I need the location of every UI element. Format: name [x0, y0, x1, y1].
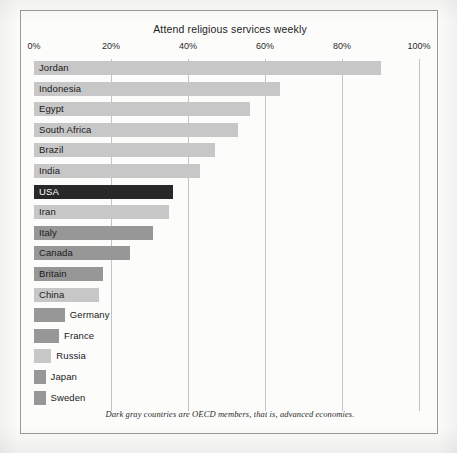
bar-label-egypt: Egypt [39, 102, 64, 116]
x-tick-label-40pct: 40% [179, 41, 197, 51]
bar-row: Sweden [34, 391, 419, 405]
x-tick-label-100pct: 100% [407, 41, 430, 51]
bar-label-usa: USA [39, 185, 59, 199]
bar-row: Canada [34, 246, 419, 260]
x-axis-tick-labels: 0%20%40%60%80%100% [21, 41, 439, 55]
bar-germany [34, 308, 65, 322]
bar-row: China [34, 288, 419, 302]
bar-row: Brazil [34, 143, 419, 157]
bar-label-indonesia: Indonesia [39, 82, 81, 96]
bar-label-canada: Canada [39, 246, 73, 260]
bar-label-russia: Russia [56, 349, 86, 363]
bar-row: Italy [34, 226, 419, 240]
bar-label-sweden: Sweden [51, 391, 86, 405]
gridline-100 [419, 59, 420, 411]
bar-row: Germany [34, 308, 419, 322]
bar-row: Indonesia [34, 82, 419, 96]
bar-row: USA [34, 185, 419, 199]
chart-title: Attend religious services weekly [21, 23, 439, 35]
bar-row: Jordan [34, 61, 419, 75]
bar-row: Russia [34, 349, 419, 363]
bar-label-italy: Italy [39, 226, 57, 240]
bar-label-france: France [64, 329, 94, 343]
bar-label-britain: Britain [39, 267, 67, 281]
bar-rows: JordanIndonesiaEgyptSouth AfricaBrazilIn… [34, 59, 419, 411]
bar-japan [34, 370, 46, 384]
bar-row: Egypt [34, 102, 419, 116]
bar-label-brazil: Brazil [39, 143, 63, 157]
x-tick-label-20pct: 20% [102, 41, 120, 51]
bar-france [34, 329, 59, 343]
bar-label-germany: Germany [70, 308, 110, 322]
bar-label-india: India [39, 164, 60, 178]
bar-label-japan: Japan [51, 370, 77, 384]
chart-frame: Attend religious services weekly 0%20%40… [20, 10, 438, 434]
bar-jordan [34, 61, 381, 75]
bar-label-iran: Iran [39, 205, 56, 219]
x-tick-label-0pct: 0% [27, 41, 40, 51]
bar-row: Iran [34, 205, 419, 219]
bar-label-china: China [39, 288, 64, 302]
bar-label-south-africa: South Africa [39, 123, 91, 137]
x-tick-label-80pct: 80% [333, 41, 351, 51]
bar-row: Japan [34, 370, 419, 384]
bar-row: France [34, 329, 419, 343]
bar-sweden [34, 391, 46, 405]
bar-row: Britain [34, 267, 419, 281]
bar-row: India [34, 164, 419, 178]
bar-label-jordan: Jordan [39, 61, 69, 75]
bar-row: South Africa [34, 123, 419, 137]
bar-egypt [34, 102, 250, 116]
bar-russia [34, 349, 51, 363]
plot-area: JordanIndonesiaEgyptSouth AfricaBrazilIn… [34, 59, 419, 411]
chart-page: Attend religious services weekly 0%20%40… [0, 0, 457, 453]
x-tick-label-60pct: 60% [256, 41, 274, 51]
